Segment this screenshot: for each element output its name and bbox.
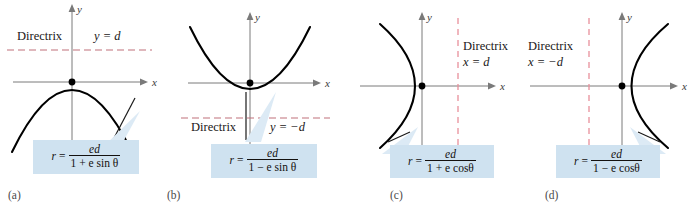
y-axis	[247, 12, 254, 145]
y-axis	[419, 12, 426, 150]
formula-denominator: 1 − e cosθ	[591, 161, 642, 174]
directrix-equation: y = −d	[270, 121, 305, 134]
focus-point	[69, 79, 76, 86]
panel-b: Directrix y = −d x y r = ed 1 − e sin θ …	[175, 0, 350, 209]
focus-point	[247, 80, 254, 87]
x-axis	[530, 83, 678, 90]
panel-letter-a: (a)	[8, 190, 21, 202]
callout-leader-line	[113, 98, 135, 140]
formula-callout: r = ed 1 − e sin θ	[211, 144, 317, 178]
directrix-label: Directrix	[191, 121, 236, 134]
polar-equation: r = ed 1 + e sin θ	[42, 143, 130, 169]
directrix-equation: x = d	[463, 56, 489, 69]
y-axis	[619, 12, 626, 150]
formula-callout: r = ed 1 − e cosθ	[556, 145, 660, 178]
polar-equation: r = ed 1 − e cosθ	[565, 148, 651, 174]
y-axis	[69, 4, 76, 140]
formula-denominator: 1 − e sin θ	[247, 160, 299, 173]
x-axis	[13, 79, 148, 86]
formula-equals: =	[416, 155, 423, 167]
x-axis	[188, 80, 321, 87]
panel-letter-b: (b)	[167, 190, 180, 202]
formula-lhs: r	[230, 154, 234, 166]
panel-a: Directrix y = d x y r = ed 1 + e sin θ (…	[0, 0, 175, 209]
formula-numerator: ed	[85, 143, 104, 155]
directrix-equation: x = −d	[528, 56, 563, 69]
panel-c: Directrix x = d x y r = ed 1 + e cosθ (c…	[350, 0, 525, 209]
formula-lhs: r	[52, 150, 56, 162]
directrix-equation: y = d	[94, 30, 120, 43]
x-axis-label: x	[682, 81, 687, 92]
formula-equals: =	[59, 150, 66, 162]
formula-equals: =	[237, 154, 244, 166]
formula-fraction: ed 1 + e cosθ	[425, 148, 476, 174]
x-axis-label: x	[152, 77, 157, 88]
panel-d: Directrix x = −d x y r = ed 1 − e cosθ (…	[520, 0, 694, 209]
x-axis-label: x	[500, 81, 505, 92]
directrix-label: Directrix	[17, 30, 62, 43]
y-axis-label: y	[427, 12, 432, 23]
formula-callout: r = ed 1 + e cosθ	[390, 145, 494, 178]
panel-letter-c: (c)	[390, 190, 403, 202]
formula-callout: r = ed 1 + e sin θ	[33, 140, 139, 174]
conics-figure: Directrix y = d x y r = ed 1 + e sin θ (…	[0, 0, 694, 209]
x-axis	[360, 83, 496, 90]
formula-equals: =	[582, 155, 589, 167]
x-axis-label: x	[325, 78, 330, 89]
y-axis-label: y	[627, 12, 632, 23]
formula-numerator: ed	[263, 147, 282, 159]
panel-letter-d: (d)	[545, 190, 558, 202]
focus-point	[619, 83, 626, 90]
formula-fraction: ed 1 − e cosθ	[591, 148, 642, 174]
y-axis-label: y	[255, 12, 260, 23]
focus-point	[419, 83, 426, 90]
formula-denominator: 1 + e sin θ	[69, 156, 121, 169]
directrix-label: Directrix	[463, 40, 508, 53]
formula-fraction: ed 1 + e sin θ	[69, 143, 121, 169]
polar-equation: r = ed 1 − e sin θ	[220, 147, 308, 173]
formula-numerator: ed	[441, 148, 460, 160]
directrix-label: Directrix	[528, 40, 573, 53]
formula-lhs: r	[574, 155, 578, 167]
formula-lhs: r	[408, 155, 412, 167]
formula-numerator: ed	[607, 148, 626, 160]
formula-denominator: 1 + e cosθ	[425, 161, 476, 174]
y-axis-label: y	[77, 4, 82, 15]
polar-equation: r = ed 1 + e cosθ	[399, 148, 485, 174]
formula-fraction: ed 1 − e sin θ	[247, 147, 299, 173]
